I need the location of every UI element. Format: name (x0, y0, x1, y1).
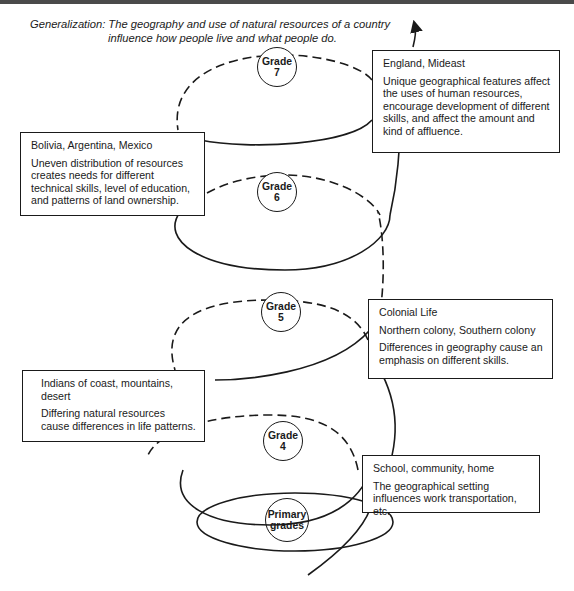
grade-label-primary: Primary grades (266, 509, 308, 531)
box-grade5: Colonial Life Northern colony, Southern … (368, 299, 553, 379)
box-grade6-desc: Uneven distribution of resources creates… (31, 157, 196, 207)
box-primary-title: School, community, home (373, 462, 531, 475)
grade-circle-4: Grade 4 (263, 421, 303, 461)
grade-label-7: Grade 7 (258, 56, 296, 78)
grade-circle-6: Grade 6 (257, 172, 297, 212)
box-grade7-desc: Unique geographical features affect the … (383, 75, 551, 138)
exit-arrow (413, 26, 416, 47)
box-grade5-desc: Differences in geography cause an emphas… (379, 341, 544, 366)
grade-label-6: Grade 6 (258, 181, 296, 203)
box-grade4: Indians of coast, mountains, desert Diff… (22, 370, 205, 442)
grade5-loop-bottom (215, 330, 370, 380)
box-grade6-title: Bolivia, Argentina, Mexico (31, 139, 196, 152)
box-primary-desc: The geographical setting influences work… (373, 480, 531, 518)
grade6-loop-bottom (175, 212, 390, 270)
grade-label-4: Grade 4 (264, 430, 302, 452)
grade-circle-primary: Primary grades (265, 498, 309, 542)
box-grade7-title: England, Mideast (383, 57, 551, 70)
box-primary: School, community, home The geographical… (362, 455, 540, 513)
grade-label-5: Grade 5 (262, 301, 300, 323)
box-grade7: England, Mideast Unique geographical fea… (372, 50, 560, 153)
box-grade4-title: Indians of coast, mountains, desert (41, 377, 196, 402)
box-grade4-desc: Differing natural resources cause differ… (41, 407, 196, 432)
box-grade5-subtitle: Northern colony, Southern colony (379, 324, 544, 337)
box-grade6: Bolivia, Argentina, Mexico Uneven distri… (20, 132, 205, 216)
grade-circle-5: Grade 5 (261, 292, 301, 332)
grade7-loop-bottom (200, 120, 372, 145)
box-grade5-title: Colonial Life (379, 306, 544, 319)
grade-circle-7: Grade 7 (257, 47, 297, 87)
